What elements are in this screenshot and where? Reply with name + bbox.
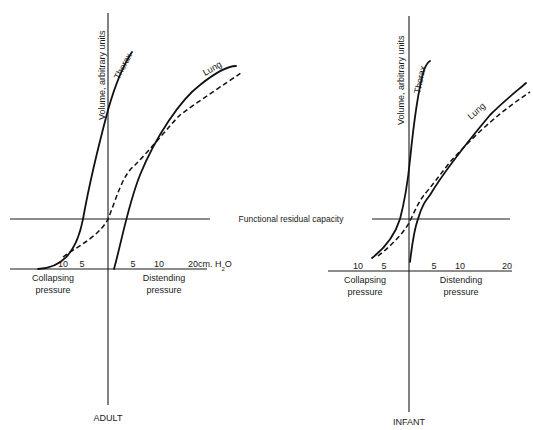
adult-distending-label-1: Distending bbox=[143, 273, 186, 283]
adult-tick-left-10: 10 bbox=[58, 259, 68, 269]
adult-collapsing-label-2: pressure bbox=[35, 285, 70, 295]
frc-label: Functional residual capacity bbox=[239, 214, 345, 224]
adult-thorax-label: Thorax bbox=[112, 51, 134, 81]
infant-title: INFANT bbox=[393, 417, 426, 427]
adult-tick-left-5: 5 bbox=[79, 259, 84, 269]
infant-tick-left-10: 10 bbox=[353, 261, 363, 271]
infant-tick-left-5: 5 bbox=[381, 261, 386, 271]
infant-tick-right-20: 20 bbox=[502, 261, 512, 271]
infant-collapsing-label-1: Collapsing bbox=[344, 275, 386, 285]
infant-tick-right-10: 10 bbox=[455, 261, 465, 271]
adult-tick-right-10: 10 bbox=[154, 259, 164, 269]
adult-thorax-curve bbox=[38, 52, 132, 269]
infant-panel: Volume, arbitrary units Thorax Lung 10 5… bbox=[328, 16, 530, 427]
pressure-volume-diagram: Functional residual capacity Volume, arb… bbox=[0, 0, 533, 430]
infant-lung-label: Lung bbox=[466, 101, 488, 122]
adult-title: ADULT bbox=[94, 413, 123, 423]
adult-collapsing-label-1: Collapsing bbox=[32, 273, 74, 283]
adult-distending-label-2: pressure bbox=[146, 285, 181, 295]
adult-tick-units: 20cm. H2O bbox=[188, 259, 232, 272]
infant-thorax-label: Thorax bbox=[412, 64, 428, 94]
adult-panel: Volume, arbitrary units Thorax Lung 10 5… bbox=[10, 13, 241, 423]
infant-y-axis-label: Volume, arbitrary units bbox=[396, 35, 406, 125]
infant-collapsing-label-2: pressure bbox=[347, 287, 382, 297]
infant-lung-curve bbox=[410, 83, 526, 262]
infant-tick-right-5: 5 bbox=[431, 261, 436, 271]
adult-y-axis-label: Volume, arbitrary units bbox=[97, 30, 107, 120]
adult-tick-right-5: 5 bbox=[130, 259, 135, 269]
adult-combined-dashed-curve bbox=[63, 73, 241, 257]
infant-distending-label-1: Distending bbox=[440, 275, 483, 285]
infant-distending-label-2: pressure bbox=[443, 287, 478, 297]
